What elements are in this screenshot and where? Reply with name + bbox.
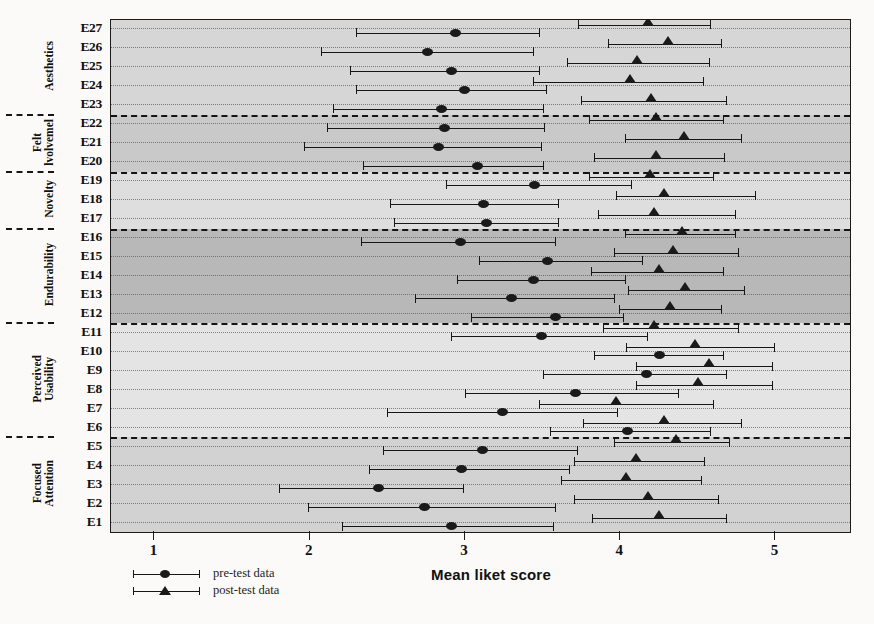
y-axis-label-e5: E5 bbox=[87, 438, 102, 454]
ci-cap-lower bbox=[574, 495, 575, 504]
ci-cap-lower bbox=[608, 39, 609, 48]
confidence-interval-bar bbox=[616, 196, 756, 197]
legend-cap-left-post bbox=[133, 587, 134, 595]
row-gridline bbox=[111, 370, 850, 371]
ci-cap-lower bbox=[591, 267, 592, 276]
confidence-interval-bar bbox=[471, 317, 623, 318]
ci-cap-lower bbox=[279, 484, 280, 493]
row-gridline bbox=[111, 85, 850, 86]
ci-cap-upper bbox=[555, 503, 556, 512]
ci-cap-upper bbox=[544, 123, 545, 132]
ci-cap-upper bbox=[738, 248, 739, 257]
triangle-marker-icon bbox=[653, 264, 665, 273]
ci-cap-upper bbox=[543, 161, 544, 170]
ci-cap-lower bbox=[350, 66, 351, 75]
ci-cap-lower bbox=[356, 28, 357, 37]
ci-cap-lower bbox=[308, 503, 309, 512]
row-gridline bbox=[111, 503, 850, 504]
ci-cap-upper bbox=[703, 77, 704, 86]
y-axis-label-e24: E24 bbox=[80, 77, 102, 93]
ci-cap-lower bbox=[628, 286, 629, 295]
confidence-interval-bar bbox=[279, 488, 464, 489]
ci-cap-upper bbox=[726, 96, 727, 105]
circle-marker-icon bbox=[472, 162, 483, 170]
group-band-aesthetics bbox=[111, 20, 850, 115]
ci-cap-lower bbox=[581, 96, 582, 105]
triangle-marker-icon bbox=[620, 472, 632, 481]
y-axis-label-e25: E25 bbox=[80, 58, 102, 74]
ci-cap-lower bbox=[327, 123, 328, 132]
ci-cap-upper bbox=[713, 400, 714, 409]
ci-cap-lower bbox=[539, 400, 540, 409]
y-axis-label-e9: E9 bbox=[87, 362, 102, 378]
ci-cap-upper bbox=[533, 47, 534, 56]
ci-cap-lower bbox=[616, 191, 617, 200]
confidence-interval-bar bbox=[451, 336, 647, 337]
ci-cap-upper bbox=[718, 495, 719, 504]
ci-cap-lower bbox=[471, 313, 472, 322]
triangle-marker-icon bbox=[631, 55, 643, 64]
ci-cap-lower bbox=[594, 351, 595, 360]
y-axis-label-e3: E3 bbox=[87, 476, 102, 492]
confidence-interval-bar bbox=[308, 507, 555, 508]
ci-cap-upper bbox=[631, 180, 632, 189]
ci-cap-lower bbox=[369, 465, 370, 474]
ci-cap-lower bbox=[636, 362, 637, 371]
triangle-marker-icon bbox=[610, 396, 622, 405]
ci-cap-lower bbox=[625, 134, 626, 143]
legend-cap-left-pre bbox=[133, 570, 134, 578]
ci-cap-upper bbox=[721, 39, 722, 48]
confidence-interval-bar bbox=[479, 261, 642, 262]
ci-cap-upper bbox=[546, 85, 547, 94]
ci-cap-upper bbox=[741, 134, 742, 143]
chart-root: AestheticsFeltlvolvemelNoveltyEndurabili… bbox=[0, 0, 874, 624]
row-gridline bbox=[111, 142, 850, 143]
ci-cap-lower bbox=[457, 275, 458, 284]
triangle-marker-icon bbox=[692, 377, 704, 386]
y-axis-labels: E27E26E25E24E23E22E21E20E19E18E17E16E15E… bbox=[0, 19, 106, 531]
ci-cap-upper bbox=[710, 20, 711, 29]
x-axis-tick-label-5: 5 bbox=[771, 542, 779, 559]
confidence-interval-bar bbox=[304, 147, 542, 148]
ci-cap-upper bbox=[647, 332, 648, 341]
y-axis-label-e10: E10 bbox=[80, 343, 102, 359]
triangle-marker-icon bbox=[159, 586, 171, 595]
x-axis-tick-label-2: 2 bbox=[305, 542, 313, 559]
confidence-interval-bar bbox=[356, 90, 545, 91]
triangle-marker-icon bbox=[650, 150, 662, 159]
ci-cap-lower bbox=[363, 161, 364, 170]
ci-cap-upper bbox=[774, 343, 775, 352]
triangle-marker-icon bbox=[664, 301, 676, 310]
circle-marker-icon bbox=[455, 238, 466, 246]
ci-cap-lower bbox=[394, 218, 395, 227]
x-axis: 12345 bbox=[110, 531, 849, 532]
ci-cap-lower bbox=[356, 85, 357, 94]
circle-marker-icon bbox=[433, 143, 444, 151]
row-gridline bbox=[111, 313, 850, 314]
ci-cap-lower bbox=[583, 419, 584, 428]
ci-cap-lower bbox=[561, 476, 562, 485]
ci-cap-upper bbox=[735, 210, 736, 219]
x-axis-tick bbox=[464, 531, 465, 540]
ci-cap-lower bbox=[383, 446, 384, 455]
confidence-interval-bar bbox=[350, 71, 539, 72]
x-axis-tick bbox=[774, 531, 775, 540]
row-gridline bbox=[111, 465, 850, 466]
ci-cap-lower bbox=[550, 427, 551, 436]
ci-cap-upper bbox=[541, 142, 542, 151]
y-axis-label-e26: E26 bbox=[80, 39, 102, 55]
y-axis-label-e19: E19 bbox=[80, 172, 102, 188]
triangle-marker-icon bbox=[653, 510, 665, 519]
ci-cap-upper bbox=[726, 514, 727, 523]
ci-cap-upper bbox=[617, 408, 618, 417]
legend-item-post: post-test data bbox=[133, 583, 363, 600]
circle-marker-icon bbox=[477, 446, 488, 454]
y-axis-label-e16: E16 bbox=[80, 229, 102, 245]
row-gridline bbox=[111, 294, 850, 295]
triangle-marker-icon bbox=[642, 491, 654, 500]
ci-cap-upper bbox=[723, 267, 724, 276]
ci-cap-upper bbox=[642, 256, 643, 265]
ci-cap-upper bbox=[772, 381, 773, 390]
triangle-marker-icon bbox=[630, 453, 642, 462]
ci-cap-lower bbox=[626, 343, 627, 352]
